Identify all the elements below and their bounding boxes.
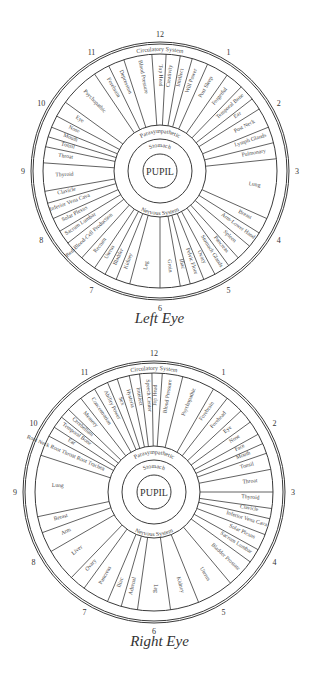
zone-label: Pancreas xyxy=(97,565,112,585)
segment-divider xyxy=(45,179,115,191)
clock-number-7: 7 xyxy=(83,608,87,617)
clock-number-8: 8 xyxy=(39,236,43,245)
zone-label: Clavicle xyxy=(240,503,260,512)
zone-label: Forebrain xyxy=(198,400,215,422)
clock-number-3: 3 xyxy=(295,167,299,176)
zone-label: Breast xyxy=(238,208,254,220)
zone-label: Psychopathic xyxy=(180,386,197,416)
stomach-label: Stomach xyxy=(142,463,166,471)
zone-label: Iliac xyxy=(115,576,124,588)
clock-number-2: 2 xyxy=(272,419,276,428)
clock-number-3: 3 xyxy=(291,488,295,497)
zone-label: Iliac xyxy=(179,258,187,270)
segment-divider xyxy=(38,502,109,517)
zone-label: Thyroid xyxy=(241,493,260,500)
pupil-label: PUPIL xyxy=(140,487,168,498)
segment-divider xyxy=(137,538,147,610)
clock-number-5: 5 xyxy=(227,286,231,295)
iridology-charts: Circulatory SystemParasympatheticNervous… xyxy=(0,0,319,680)
zone-label: Leg xyxy=(153,584,159,593)
parasympathetic-label: Parasympathetic xyxy=(139,128,182,139)
segment-divider xyxy=(200,498,272,508)
zone-label: Lymph Glands xyxy=(234,132,267,148)
zone-label: Arm xyxy=(60,526,72,536)
right-eye-caption: Right Eye xyxy=(0,633,319,650)
zone-label: Top Head xyxy=(151,384,158,406)
segment-divider xyxy=(177,389,214,452)
clock-number-2: 2 xyxy=(277,99,281,108)
zone-label: Blood Pressure xyxy=(138,60,150,95)
zone-label: Blood Pressure xyxy=(161,379,172,414)
segment-divider xyxy=(199,469,271,483)
zone-label: Throat xyxy=(242,477,258,484)
zone-label: Ear xyxy=(232,110,242,119)
zone-label: Clavicle xyxy=(57,185,77,195)
clock-number-10: 10 xyxy=(30,419,38,428)
zone-label: Throat xyxy=(58,152,74,160)
zone-label: Tonsil xyxy=(61,141,76,150)
zone-label: Ovary xyxy=(84,557,98,572)
segment-divider xyxy=(43,163,114,168)
clock-number-8: 8 xyxy=(32,558,36,567)
segment-divider xyxy=(196,444,263,474)
clock-number-10: 10 xyxy=(37,99,45,108)
segment-divider xyxy=(168,216,180,286)
clock-number-9: 9 xyxy=(13,488,17,497)
left-eye-caption: Left Eye xyxy=(0,310,319,327)
pupil-label: PUPIL xyxy=(146,166,174,177)
segment-divider xyxy=(42,508,111,533)
zone-label: Lung xyxy=(248,180,261,188)
zone-label: Post Sleep xyxy=(197,75,214,99)
zone-label: Liver xyxy=(70,544,83,556)
circulatory-system-label: Circulatory System xyxy=(130,365,178,373)
segment-divider xyxy=(206,159,277,166)
zone-label: Kidney xyxy=(176,576,186,594)
segment-divider xyxy=(160,538,170,610)
zone-label: Pulmonary xyxy=(241,147,266,157)
zone-label: Eye xyxy=(75,114,86,124)
zone-label: Intellect xyxy=(136,387,145,407)
zone-label: Thyroid xyxy=(55,171,74,178)
zone-label: Hysteria xyxy=(126,388,137,408)
zone-label: Top Head xyxy=(158,65,164,87)
zone-label: Ovary xyxy=(196,249,207,264)
zone-label: Post Neck xyxy=(233,118,256,134)
zone-label: Uterus xyxy=(199,566,212,582)
segment-divider xyxy=(171,535,198,603)
zone-label: Nose xyxy=(228,433,241,445)
zone-label: Nose xyxy=(68,124,81,135)
zone-label: Sex xyxy=(118,396,127,406)
clock-number-12: 12 xyxy=(150,349,158,358)
zone-label: Spleen xyxy=(223,228,238,243)
zone-label: Psychopathic xyxy=(83,88,108,114)
clock-number-12: 12 xyxy=(156,30,164,39)
segment-divider xyxy=(130,215,148,284)
zone-label: Eye xyxy=(222,424,233,434)
zone-label: Kidney xyxy=(122,252,133,270)
stomach-label: Stomach xyxy=(148,142,172,150)
clock-number-11: 11 xyxy=(88,48,96,57)
clock-number-11: 11 xyxy=(81,368,89,377)
clock-number-5: 5 xyxy=(222,608,226,617)
segment-divider xyxy=(152,54,157,125)
right-eye-chart: Circulatory SystemParasympatheticNervous… xyxy=(13,349,295,636)
zone-label: Adrenal xyxy=(127,576,137,595)
zone-label: Intellect xyxy=(175,67,185,87)
clock-number-1: 1 xyxy=(227,48,231,57)
clock-number-1: 1 xyxy=(222,368,226,377)
zone-label: Ear xyxy=(67,437,77,446)
zone-label: Groin xyxy=(167,259,174,273)
clock-number-4: 4 xyxy=(277,236,281,245)
left-eye-chart: Circulatory SystemParasympatheticNervous… xyxy=(21,30,299,313)
segment-divider xyxy=(197,453,266,477)
parasympathetic-label: Parasympathetic xyxy=(133,449,176,460)
zone-label: Lung xyxy=(52,482,64,489)
clock-number-9: 9 xyxy=(21,167,25,176)
circulatory-system-label: Circulatory System xyxy=(136,46,184,54)
clock-number-7: 7 xyxy=(90,286,94,295)
clock-number-4: 4 xyxy=(272,558,276,567)
zone-label: Leg xyxy=(142,261,149,271)
zone-label: Creativity xyxy=(165,64,174,87)
